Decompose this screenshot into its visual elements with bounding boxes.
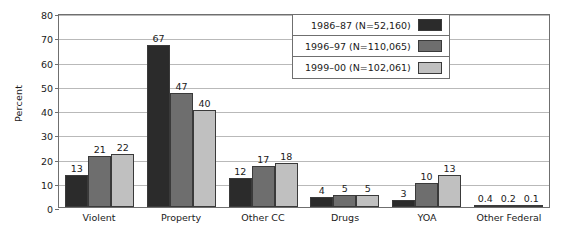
legend-item-label: 1996–97 (N=110,065): [305, 41, 411, 52]
legend: 1986–87 (N=52,160)1996–97 (N=110,065)199…: [292, 14, 450, 79]
bar-value-label: 0.4: [478, 193, 493, 204]
legend-color-swatch: [418, 40, 442, 52]
bar-value-label: 10: [420, 171, 432, 182]
bar[interactable]: 21: [88, 156, 111, 207]
legend-color-swatch: [418, 19, 442, 31]
bar[interactable]: 5: [333, 195, 356, 207]
bar-value-label: 0.2: [501, 193, 516, 204]
bar-slot: 13: [65, 15, 88, 207]
bar-value-label: 21: [94, 144, 106, 155]
bar-slot: 0.2: [497, 15, 520, 207]
legend-item[interactable]: 1986–87 (N=52,160): [293, 15, 449, 36]
bar[interactable]: 22: [111, 154, 134, 207]
x-axis-category-label: YOA: [386, 212, 468, 223]
legend-item[interactable]: 1999–00 (N=102,061): [293, 57, 449, 78]
bar-slot: 67: [147, 15, 170, 207]
bar[interactable]: 47: [170, 93, 193, 207]
bar[interactable]: 13: [65, 175, 88, 207]
bar[interactable]: 13: [438, 175, 461, 207]
bar-value-label: 67: [152, 33, 164, 44]
bar-value-label: 0.1: [524, 193, 539, 204]
bar[interactable]: 10: [415, 183, 438, 207]
x-axis-category-label: Property: [140, 212, 222, 223]
bar-slot: 0.1: [520, 15, 543, 207]
bar-value-label: 3: [400, 188, 406, 199]
bar[interactable]: 0.2: [497, 205, 520, 207]
bar-slot: 0.4: [474, 15, 497, 207]
bar-chart: Percent 01020304050607080 13212267474012…: [0, 0, 571, 250]
bar-value-label: 13: [443, 163, 455, 174]
bar[interactable]: 17: [252, 166, 275, 207]
bar-value-label: 17: [257, 154, 269, 165]
bar[interactable]: 3: [392, 200, 415, 207]
legend-item-label: 1999–00 (N=102,061): [305, 62, 411, 73]
legend-item[interactable]: 1996–97 (N=110,065): [293, 36, 449, 57]
bar-slot: 40: [193, 15, 216, 207]
bar[interactable]: 0.4: [474, 205, 497, 207]
y-axis-tick-label: 80: [41, 10, 53, 21]
bar-value-label: 5: [342, 183, 348, 194]
bar-group: 0.40.20.1: [467, 15, 549, 207]
bar-group: 132122: [59, 15, 141, 207]
bar-value-label: 22: [117, 142, 129, 153]
y-axis-tick-label: 40: [41, 107, 53, 118]
bar-slot: 12: [229, 15, 252, 207]
bar[interactable]: 40: [193, 110, 216, 207]
legend-color-swatch: [418, 62, 442, 74]
bar[interactable]: 0.1: [520, 205, 543, 207]
x-axis-labels: ViolentPropertyOther CCDrugsYOAOther Fed…: [58, 212, 550, 223]
y-axis-tick-label: 30: [41, 131, 53, 142]
bar-value-label: 47: [175, 81, 187, 92]
y-axis-tick-label: 0: [47, 204, 53, 215]
bar[interactable]: 4: [310, 197, 333, 207]
bar-value-label: 4: [319, 185, 325, 196]
bar-value-label: 40: [198, 98, 210, 109]
bar-slot: 21: [88, 15, 111, 207]
y-axis-tick-label: 60: [41, 58, 53, 69]
bar-value-label: 18: [280, 151, 292, 162]
y-axis-title: Percent: [13, 64, 24, 144]
bar-value-label: 12: [234, 166, 246, 177]
y-axis-tick-label: 20: [41, 155, 53, 166]
bar-value-label: 13: [71, 163, 83, 174]
y-axis-tick-mark: [55, 209, 59, 210]
x-axis-category-label: Other CC: [222, 212, 304, 223]
y-axis-tick-label: 70: [41, 34, 53, 45]
bar-slot: 22: [111, 15, 134, 207]
bar-group: 674740: [141, 15, 223, 207]
bar[interactable]: 18: [275, 163, 298, 207]
bar[interactable]: 12: [229, 178, 252, 207]
x-axis-category-label: Violent: [58, 212, 140, 223]
bar-slot: 47: [170, 15, 193, 207]
x-axis-category-label: Other Federal: [468, 212, 550, 223]
legend-item-label: 1986–87 (N=52,160): [311, 20, 411, 31]
bar[interactable]: 67: [147, 45, 170, 207]
x-axis-category-label: Drugs: [304, 212, 386, 223]
y-axis-tick-label: 50: [41, 82, 53, 93]
bar[interactable]: 5: [356, 195, 379, 207]
bar-slot: 17: [252, 15, 275, 207]
y-axis-tick-label: 10: [41, 179, 53, 190]
bar-value-label: 5: [365, 183, 371, 194]
